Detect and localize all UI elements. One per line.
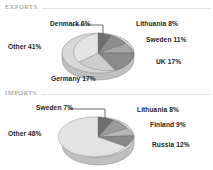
imports-label-other: Other 48% [8, 130, 42, 137]
imports-label-sweden: Sweden 7% [36, 104, 73, 111]
imports-label-finland: Finland 9% [150, 121, 186, 128]
exports-label-sweden: Sweden 11% [146, 36, 187, 43]
imports-label-lithuania: Lithuania 8% [137, 106, 179, 113]
exports-header-rule [42, 8, 211, 9]
exports-label-lithuania: Lithuania 8% [136, 20, 178, 27]
imports-section-header: IMPORTS [5, 89, 37, 96]
imports-leader-sweden [68, 109, 105, 118]
imports-header-rule [42, 94, 211, 95]
exports-label-uk: UK 17% [156, 58, 181, 65]
exports-label-germany: Germany 17% [51, 75, 96, 82]
imports-chart-panel: IMPORTS Sweden 7% Lithuania 8% Finland 9… [0, 85, 213, 170]
exports-chart-panel: EXPORTS Denmark 6% Lith [0, 0, 213, 85]
exports-label-denmark: Denmark 6% [50, 20, 91, 27]
imports-label-russia: Russia 12% [152, 141, 190, 148]
exports-section-header: EXPORTS [5, 3, 38, 10]
exports-label-other: Other 41% [8, 43, 42, 50]
